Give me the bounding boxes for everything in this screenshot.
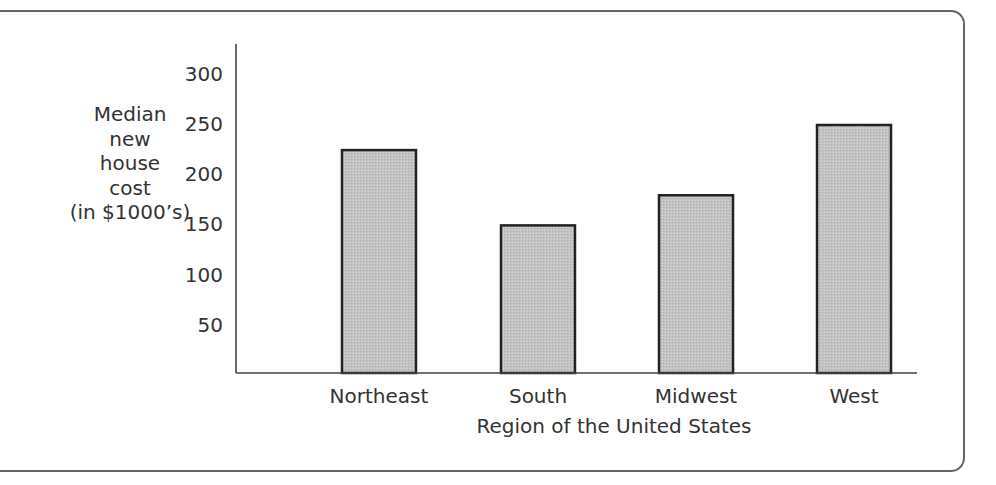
bar-midwest: [659, 195, 733, 373]
x-category-label: Northeast: [299, 384, 459, 408]
plot-area: [0, 0, 996, 485]
bar-south: [501, 225, 575, 373]
x-category-label: South: [458, 384, 618, 408]
bar-northeast: [342, 150, 416, 373]
bar-west: [817, 125, 891, 373]
x-category-label: West: [774, 384, 934, 408]
x-category-label: Midwest: [616, 384, 776, 408]
bars: [342, 125, 891, 373]
x-axis-label: Region of the United States: [354, 414, 874, 438]
